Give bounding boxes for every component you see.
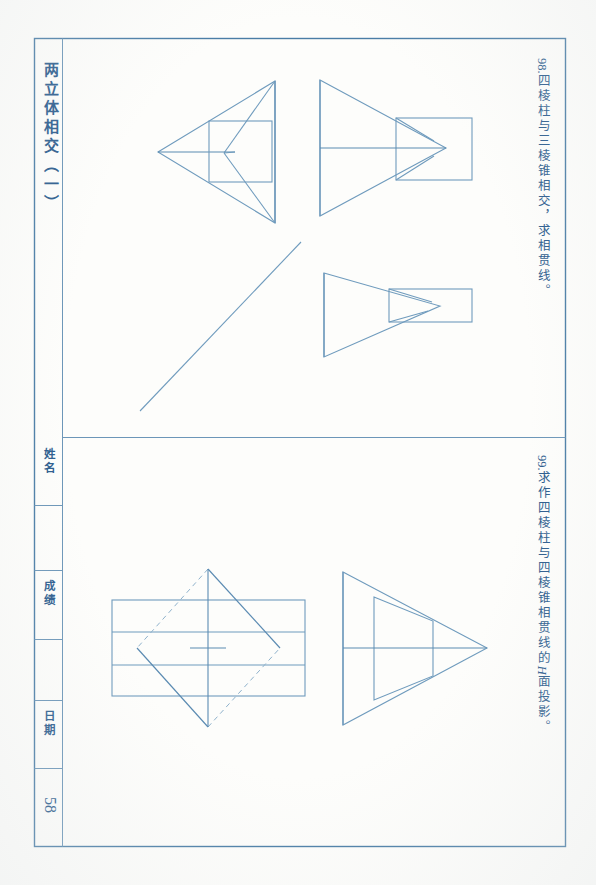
problem-99-number: 99. (535, 455, 549, 471)
problem-99-text-after: 面投影。 (535, 675, 549, 735)
problem-99-plane-label: H (535, 666, 549, 675)
problem-98-prompt: 98.四棱柱与三棱锥相交，求相贯线。 (533, 58, 552, 299)
figure-98-side-view (324, 273, 472, 357)
worksheet-page: .ink { stroke: #5a87ab; fill: none; } .f… (0, 0, 596, 885)
figure-98-45-line (140, 242, 301, 411)
page-title: 两立体相交（一） (40, 62, 61, 214)
problem-99-text-before: 求作四棱柱与四棱锥相贯线的 (535, 471, 549, 666)
figure-98-top-view (158, 81, 275, 223)
title-block-label-name: 姓名 (41, 448, 57, 476)
figure-98-front-view (320, 80, 472, 216)
problem-99-prompt: 99.求作四棱柱与四棱锥相贯线的H面投影。 (533, 455, 552, 735)
sheet-frame (35, 39, 566, 847)
title-block-label-date: 日期 (41, 710, 57, 738)
drawing-sheet: .ink { stroke: #5a87ab; fill: none; } .f… (0, 0, 596, 885)
problem-98-number: 98. (535, 58, 549, 74)
figure-99-side-view (343, 572, 487, 725)
figure-99-top-view (112, 569, 305, 727)
title-block-label-grade: 成绩 (41, 580, 57, 608)
page-number: 58 (41, 797, 59, 813)
problem-98-text: 四棱柱与三棱锥相交，求相贯线。 (535, 74, 549, 299)
